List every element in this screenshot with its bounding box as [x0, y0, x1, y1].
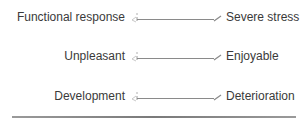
scale-row-3: Development Deterioration [0, 88, 307, 104]
scale-line-icon [128, 90, 224, 102]
scale-line-icon [128, 50, 224, 62]
scale-right-label: Severe stress [226, 9, 299, 25]
bottom-divider [12, 116, 296, 118]
scale-left-label: Development [54, 88, 125, 104]
scale-left-label: Functional response [17, 9, 125, 25]
scale-line-icon [128, 11, 224, 23]
scale-row-2: Unpleasant Enjoyable [0, 48, 307, 64]
scale-right-label: Enjoyable [226, 48, 279, 64]
scale-row-1: Functional response Severe stress [0, 9, 307, 25]
scale-right-label: Deterioration [226, 88, 295, 104]
scale-left-label: Unpleasant [64, 48, 125, 64]
